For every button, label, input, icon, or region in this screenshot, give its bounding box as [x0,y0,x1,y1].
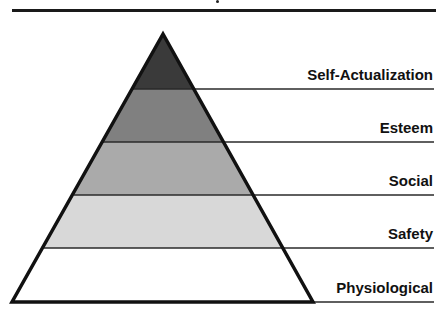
band-social [0,142,443,195]
label-esteem: Esteem [380,120,433,135]
label-social: Social [389,173,433,188]
label-safety: Safety [388,226,433,241]
label-physiological: Physiological [336,280,433,295]
pyramid-diagram [0,0,443,318]
band-esteem [0,89,443,142]
label-self-actualization: Self-Actualization [307,67,433,82]
